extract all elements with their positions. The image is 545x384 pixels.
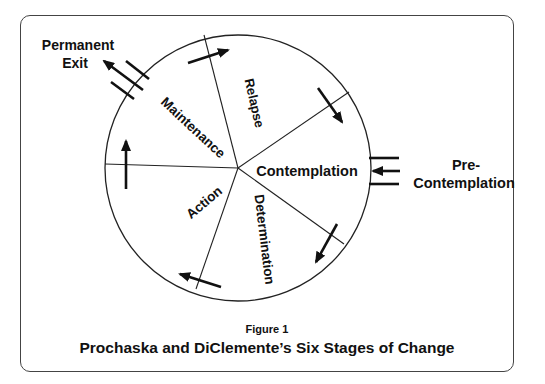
stage-label-contemplation: Contemplation: [256, 163, 358, 179]
stage-label-relapse: Relapse: [241, 77, 267, 129]
figure-title: Prochaska and DiClemente’s Six Stages of…: [20, 339, 514, 357]
exit-label-line1: Permanent: [42, 37, 115, 53]
stage-label-action: Action: [183, 183, 225, 221]
permanent-exit-arrow: [104, 61, 149, 99]
arrow-contemplation-to-determination: [316, 224, 337, 262]
figure-number: Figure 1: [20, 323, 514, 335]
entry-label-line1: Pre-: [452, 157, 480, 173]
entry-label-line2: Contemplation: [413, 175, 515, 191]
stage-label-determination: Determination: [251, 193, 277, 285]
stage-label-maintenance: Maintenance: [158, 94, 228, 161]
pre-contemplation-entry-arrow: [369, 158, 400, 184]
arrow-relapse-to-contemplation: [318, 88, 342, 122]
exit-label-line2: Exit: [62, 55, 88, 71]
